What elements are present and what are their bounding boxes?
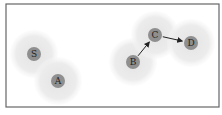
node-label: A: [54, 76, 62, 86]
node-c: C: [148, 28, 162, 42]
graph-diagram: SABCD: [0, 0, 222, 115]
node-label: D: [187, 38, 194, 48]
node-label: S: [31, 49, 37, 59]
node-a: A: [51, 74, 65, 88]
node-d: D: [184, 36, 198, 50]
node-b: B: [126, 55, 140, 69]
node-label: B: [130, 57, 137, 67]
node-label: C: [152, 30, 159, 40]
node-s: S: [27, 47, 41, 61]
